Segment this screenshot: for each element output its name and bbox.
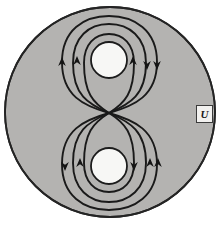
- region-label-text: U: [201, 109, 209, 120]
- lower-hole: [91, 148, 127, 184]
- flow-diagram: [0, 0, 218, 232]
- figure-container: U: [0, 0, 218, 232]
- upper-hole: [91, 42, 127, 78]
- region-label-u: U: [196, 105, 213, 123]
